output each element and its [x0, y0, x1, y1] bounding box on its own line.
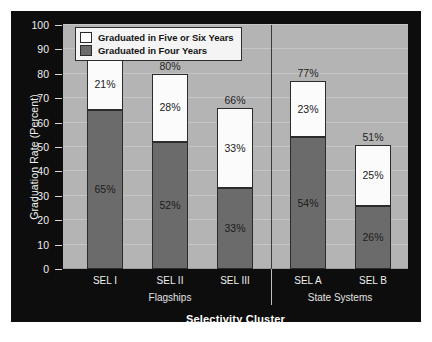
- legend-swatch-five-or-six-years-icon: [80, 32, 92, 43]
- bar-segment-four-years[interactable]: 26%: [355, 206, 391, 269]
- bar-segment-label-five-or-six-years: 25%: [362, 170, 383, 181]
- y-axis-tick-label: 30: [11, 191, 49, 201]
- bar-segment-label-five-or-six-years: 23%: [297, 104, 318, 115]
- bar-total-label: 66%: [205, 95, 265, 106]
- bar-sel-ii[interactable]: 52%28%: [152, 74, 188, 269]
- cluster-divider: [271, 25, 272, 269]
- y-axis-tick-mark: [55, 74, 62, 75]
- legend-swatch-four-years-icon: [80, 45, 92, 56]
- x-axis-group-label: State Systems: [270, 292, 410, 303]
- legend-item-four-years: Graduated in Four Years: [80, 44, 234, 57]
- bar-segment-label-four-years: 65%: [94, 184, 115, 195]
- bar-segment-five-or-six-years[interactable]: 33%: [217, 108, 253, 189]
- y-axis-title: Graduation Rate (Percent): [28, 52, 40, 262]
- y-axis-tick-label: 90: [11, 44, 49, 54]
- chart-legend: Graduated in Five or Six Years Graduated…: [75, 27, 242, 61]
- bar-segment-label-five-or-six-years: 33%: [224, 143, 245, 154]
- y-axis-tick-label: 0: [11, 264, 49, 274]
- bar-segment-five-or-six-years[interactable]: 21%: [87, 59, 123, 110]
- legend-label-four-years: Graduated in Four Years: [98, 45, 207, 56]
- bar-segment-four-years[interactable]: 52%: [152, 142, 188, 269]
- y-axis-tick-label: 40: [11, 166, 49, 176]
- y-axis-tick-label: 10: [11, 240, 49, 250]
- y-axis-tick-mark: [55, 147, 62, 148]
- y-axis-tick-label: 100: [11, 20, 49, 30]
- bar-segment-four-years[interactable]: 65%: [87, 110, 123, 269]
- y-axis-tick-mark: [55, 171, 62, 172]
- x-axis-tick-label: SEL I: [70, 275, 140, 286]
- y-axis-tick-label: 20: [11, 215, 49, 225]
- gridline: [63, 24, 408, 25]
- x-axis-group-label: Flagships: [100, 292, 240, 303]
- y-axis-tick-label: 60: [11, 118, 49, 128]
- y-axis-tick-mark: [55, 220, 62, 221]
- legend-label-five-or-six-years: Graduated in Five or Six Years: [98, 32, 234, 43]
- y-axis-tick-label: 70: [11, 93, 49, 103]
- chart-panel: Graduation Rate (Percent) 10090807060504…: [11, 11, 421, 322]
- y-axis-tick-mark: [55, 269, 62, 270]
- y-axis-tick-label: 50: [11, 142, 49, 152]
- bar-segment-four-years[interactable]: 33%: [217, 188, 253, 269]
- bar-sel-b[interactable]: 26%25%: [355, 145, 391, 269]
- bar-segment-five-or-six-years[interactable]: 25%: [355, 145, 391, 206]
- bar-segment-five-or-six-years[interactable]: 28%: [152, 74, 188, 142]
- x-axis-tick-label: SEL III: [200, 275, 270, 286]
- bar-segment-label-four-years: 52%: [159, 200, 180, 211]
- bar-segment-four-years[interactable]: 54%: [290, 137, 326, 269]
- legend-item-five-or-six-years: Graduated in Five or Six Years: [80, 31, 234, 44]
- bar-total-label: 77%: [278, 68, 338, 79]
- bar-segment-label-four-years: 26%: [362, 232, 383, 243]
- bar-sel-iii[interactable]: 33%33%: [217, 108, 253, 269]
- bar-segment-label-five-or-six-years: 28%: [159, 102, 180, 113]
- x-axis-tick-label: SEL II: [135, 275, 205, 286]
- plot-area: 65%21%86%52%28%80%33%33%66%54%23%77%26%2…: [63, 25, 408, 269]
- y-axis-tick-mark: [55, 123, 62, 124]
- y-axis-tick-mark: [55, 245, 62, 246]
- y-axis-tick-label: 80: [11, 69, 49, 79]
- bar-segment-label-four-years: 54%: [297, 198, 318, 209]
- bar-total-label: 51%: [343, 132, 403, 143]
- chart-figure: Graduation Rate (Percent) 10090807060504…: [0, 0, 432, 342]
- y-axis-tick-mark: [55, 49, 62, 50]
- y-axis-tick-mark: [55, 98, 62, 99]
- y-axis-tick-mark: [55, 25, 62, 26]
- bar-sel-i[interactable]: 65%21%: [87, 59, 123, 269]
- bar-segment-label-five-or-six-years: 21%: [94, 79, 115, 90]
- y-axis-tick-mark: [55, 196, 62, 197]
- bar-segment-five-or-six-years[interactable]: 23%: [290, 81, 326, 137]
- bar-sel-a[interactable]: 54%23%: [290, 81, 326, 269]
- x-axis-tick-label: SEL A: [273, 275, 343, 286]
- x-axis-title: Selectivity Cluster: [63, 313, 408, 325]
- bar-segment-label-four-years: 33%: [224, 223, 245, 234]
- x-axis-tick-label: SEL B: [338, 275, 408, 286]
- bar-total-label: 80%: [140, 61, 200, 72]
